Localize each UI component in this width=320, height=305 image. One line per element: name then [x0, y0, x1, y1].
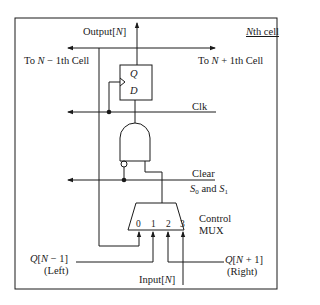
right-input-wire: [168, 232, 224, 262]
clk-label: Clk: [192, 102, 207, 113]
left-input-wire: [76, 232, 153, 262]
mux-label-control: Control: [199, 214, 231, 225]
clear-label: Clear: [192, 169, 215, 180]
select-label: S0 and S1: [190, 184, 228, 196]
to-next-cell-label: To N + 1th Cell: [198, 56, 263, 67]
mux-input-0: 0: [136, 220, 141, 230]
and-gate: [120, 123, 150, 161]
right-input-sublabel: (Right): [227, 267, 257, 278]
ff-d-label: D: [130, 86, 138, 97]
clk-to-ff-wire: [109, 82, 120, 112]
right-input-label: Q[N + 1]: [225, 255, 263, 266]
inverter-bubble-icon: [121, 161, 127, 167]
to-prev-cell-label: To N − 1th Cell: [24, 56, 89, 67]
mux-input-2: 2: [166, 220, 171, 230]
input-n-label: Input[N]: [139, 275, 175, 286]
cell-title: Nth cell: [246, 27, 279, 38]
ff-q-label: Q: [130, 69, 138, 80]
left-input-label: Q[N − 1]: [30, 254, 68, 265]
clock-triangle-icon: [120, 78, 125, 86]
clk-junction-dot: [107, 110, 112, 115]
output-label: Output[N]: [83, 27, 126, 38]
clear-junction-dot: [122, 178, 127, 183]
mux-input-1: 1: [151, 220, 156, 230]
left-input-sublabel: (Left): [44, 266, 68, 277]
mux-label-mux: MUX: [199, 226, 224, 237]
mux-input-3: 3: [180, 220, 185, 230]
mux-output-wire: [145, 161, 162, 203]
